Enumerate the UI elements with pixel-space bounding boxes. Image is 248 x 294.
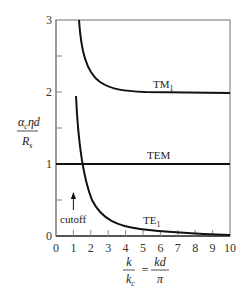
svg-text:0: 0 [46, 229, 52, 243]
svg-text:3: 3 [105, 241, 111, 255]
svg-text:5: 5 [140, 241, 146, 255]
svg-text:1: 1 [46, 157, 52, 171]
svg-text:k: k [126, 255, 132, 269]
svg-text:8: 8 [192, 241, 198, 255]
cutoff-arrowhead-icon [71, 192, 76, 199]
svg-text:6: 6 [157, 241, 163, 255]
svg-text:Rs: Rs [21, 134, 32, 150]
svg-text:kc: kc [126, 272, 135, 288]
svg-text:=: = [141, 263, 149, 277]
chart: 0 1 2 3 4 5 6 7 8 9 10 0 1 2 3 cutoff TM… [0, 0, 248, 294]
svg-text:2: 2 [88, 241, 94, 255]
y-axis-label: αcηd Rs [17, 115, 41, 150]
svg-text:0: 0 [53, 241, 59, 255]
svg-text:2: 2 [46, 85, 52, 99]
svg-text:7: 7 [175, 241, 181, 255]
tm1-label: TM1 [153, 78, 174, 93]
svg-text:3: 3 [46, 13, 52, 27]
svg-text:αcηd: αcηd [18, 115, 41, 131]
y-tick-labels: 0 1 2 3 [46, 13, 52, 243]
tem-label: TEM [147, 149, 170, 161]
y-ticks [56, 56, 62, 200]
x-tick-labels: 0 1 2 3 4 5 6 7 8 9 10 [53, 241, 236, 255]
svg-text:10: 10 [224, 241, 236, 255]
x-axis-label: k kc = kd π [123, 255, 169, 288]
svg-text:1: 1 [70, 241, 76, 255]
cutoff-label: cutoff [60, 213, 86, 225]
te1-label: TE1 [143, 214, 160, 229]
svg-text:kd: kd [154, 255, 166, 269]
svg-text:9: 9 [210, 241, 216, 255]
svg-text:4: 4 [123, 241, 129, 255]
plot-frame [56, 20, 230, 236]
svg-text:π: π [157, 272, 164, 286]
